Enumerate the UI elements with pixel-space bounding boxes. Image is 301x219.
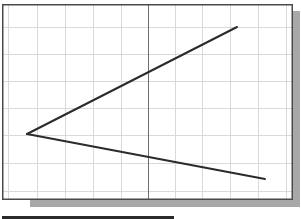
frame-shadow-bottom [30,200,300,207]
bottom-toolbar-strip [2,216,174,219]
drawing-canvas[interactable] [0,0,301,219]
frame-shadow-right [293,11,300,207]
drawing-sheet [2,4,293,200]
